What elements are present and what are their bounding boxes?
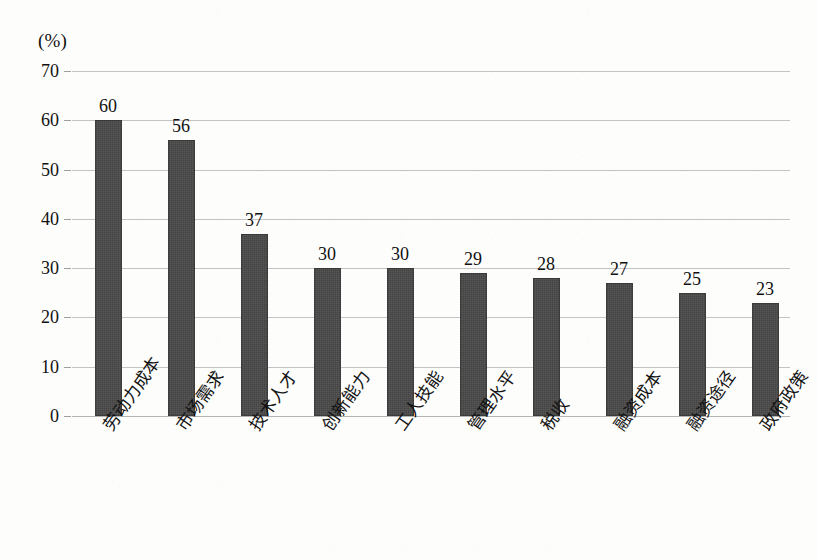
bar-chart-figure: (%) 01020304050607060563730302928272523 … bbox=[0, 0, 818, 559]
y-axis-tick-mark bbox=[64, 120, 71, 121]
y-axis-tick-label: 10 bbox=[41, 358, 59, 376]
bar-value-label: 29 bbox=[464, 250, 482, 268]
y-axis-tick-mark bbox=[64, 367, 71, 368]
bar-group: 37 bbox=[241, 234, 268, 416]
y-axis-tick-label: 70 bbox=[41, 62, 59, 80]
y-axis-tick-label: 30 bbox=[41, 259, 59, 277]
y-axis-tick-mark bbox=[64, 268, 71, 269]
y-axis-tick-label: 50 bbox=[41, 161, 59, 179]
bar-value-label: 27 bbox=[610, 260, 628, 278]
y-axis-tick-mark bbox=[64, 170, 71, 171]
bar-value-label: 60 bbox=[99, 97, 117, 115]
plot-area: 01020304050607060563730302928272523 bbox=[72, 71, 790, 416]
bar-value-label: 30 bbox=[318, 245, 336, 263]
y-axis-tick-label: 0 bbox=[50, 407, 59, 425]
bar bbox=[460, 273, 487, 416]
gridline-70 bbox=[72, 71, 790, 72]
bar-group: 30 bbox=[387, 268, 414, 416]
bar-value-label: 25 bbox=[683, 270, 701, 288]
bar-group: 27 bbox=[606, 283, 633, 416]
y-axis-unit-label: (%) bbox=[38, 30, 67, 52]
bar-value-label: 28 bbox=[537, 255, 555, 273]
bar-group: 30 bbox=[314, 268, 341, 416]
bar-value-label: 23 bbox=[756, 280, 774, 298]
bar bbox=[387, 268, 414, 416]
y-axis-tick-mark bbox=[64, 71, 71, 72]
bar-group: 28 bbox=[533, 278, 560, 416]
bar bbox=[241, 234, 268, 416]
bar bbox=[168, 140, 195, 416]
bar-group: 56 bbox=[168, 140, 195, 416]
y-axis-tick-mark bbox=[64, 219, 71, 220]
bar-value-label: 30 bbox=[391, 245, 409, 263]
bar-value-label: 37 bbox=[245, 211, 263, 229]
y-axis-tick-label: 60 bbox=[41, 111, 59, 129]
bar bbox=[606, 283, 633, 416]
bar bbox=[95, 120, 122, 416]
y-axis-tick-label: 40 bbox=[41, 210, 59, 228]
bar bbox=[314, 268, 341, 416]
y-axis-tick-mark bbox=[64, 317, 71, 318]
y-axis-tick-label: 20 bbox=[41, 308, 59, 326]
bar-group: 60 bbox=[95, 120, 122, 416]
bar bbox=[533, 278, 560, 416]
y-axis-tick-mark bbox=[64, 416, 71, 417]
bar-value-label: 56 bbox=[172, 117, 190, 135]
bar-group: 29 bbox=[460, 273, 487, 416]
